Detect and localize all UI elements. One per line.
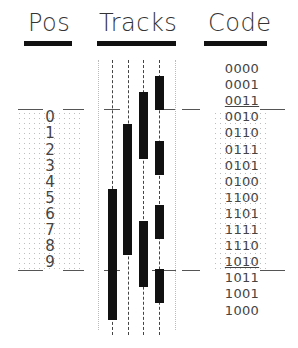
track-4-bar	[155, 269, 164, 303]
grid-column	[98, 60, 99, 330]
code-item: 0110	[212, 125, 272, 141]
header-code-underline	[204, 41, 267, 46]
position-item: 2	[30, 142, 70, 158]
code-item: 1011	[212, 270, 272, 286]
code-item: 1010	[212, 254, 272, 270]
position-item: 5	[30, 190, 70, 206]
range-line-top-right	[182, 109, 200, 110]
position-item: 9	[30, 254, 70, 270]
track-4-bar	[155, 205, 164, 239]
header-pos-underline	[24, 41, 72, 46]
code-item: 0100	[212, 174, 272, 190]
position-item: 7	[30, 222, 70, 238]
range-line-bottom-right	[182, 270, 200, 271]
code-item: 1110	[212, 238, 272, 254]
track-3-bar	[139, 92, 148, 158]
track-4-bar	[155, 141, 164, 175]
track-4-bar	[155, 76, 164, 110]
position-item: 8	[30, 238, 70, 254]
code-item: 0111	[212, 142, 272, 158]
code-item: 1000	[212, 303, 272, 319]
header-code: Code	[208, 9, 271, 37]
position-item: 1	[30, 125, 70, 141]
code-item: 0011	[212, 93, 272, 109]
grid-column	[175, 60, 176, 330]
code-item: 1111	[212, 222, 272, 238]
code-item: 0101	[212, 158, 272, 174]
code-item: 0000	[212, 61, 272, 77]
track-2-bar	[123, 124, 132, 255]
code-item: 0010	[212, 109, 272, 125]
code-item: 1100	[212, 190, 272, 206]
header-tracks-underline	[97, 41, 176, 46]
position-item: 3	[30, 158, 70, 174]
code-item: 1001	[212, 286, 272, 302]
position-item: 6	[30, 206, 70, 222]
code-item: 1101	[212, 206, 272, 222]
header-pos: Pos	[28, 9, 70, 37]
header-tracks: Tracks	[99, 9, 177, 37]
position-item: 0	[30, 109, 70, 125]
track-3-bar	[139, 221, 148, 287]
position-item: 4	[30, 174, 70, 190]
track-1-bar	[108, 189, 117, 320]
code-item: 0001	[212, 77, 272, 93]
